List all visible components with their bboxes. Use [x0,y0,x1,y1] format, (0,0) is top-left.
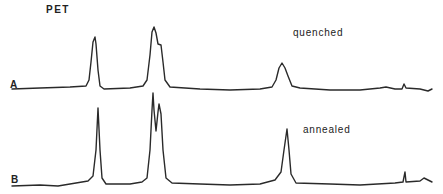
trace-b-annealed [12,93,432,186]
trace-a-quenched [12,27,432,91]
spectra-plot [0,0,443,194]
quenched-annotation: quenched [293,27,343,38]
trace-a-label: A [10,79,18,90]
annealed-annotation: annealed [303,124,351,135]
figure-title: PET [46,4,70,15]
trace-b-label: B [11,174,19,185]
spectra-figure: PET A B quenched annealed [0,0,443,194]
